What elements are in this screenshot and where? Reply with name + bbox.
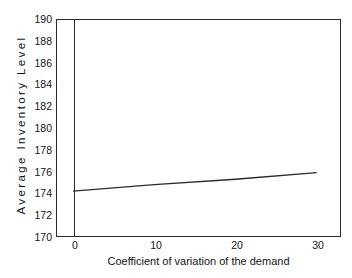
- y-tick-label: 186: [18, 58, 52, 68]
- x-axis-tick-labels: 0 10 20 30: [0, 240, 352, 254]
- y-axis-tick-labels: 190 188 186 184 182 180 178 176 174 172 …: [16, 0, 52, 278]
- x-tick-label: 0: [55, 240, 95, 251]
- x-tick-label: 20: [217, 240, 257, 251]
- chart-figure: Average Inventory Level 190 188 186 184 …: [0, 0, 352, 278]
- y-tick-label: 178: [18, 145, 52, 155]
- vertical-axis-line: [74, 19, 75, 237]
- y-tick-label: 188: [18, 36, 52, 46]
- y-tick-label: 184: [18, 79, 52, 89]
- y-tick-label: 174: [18, 188, 52, 198]
- y-tick-label: 182: [18, 101, 52, 111]
- plot-frame: [56, 19, 341, 237]
- x-tick-label: 10: [136, 240, 176, 251]
- x-axis-title: Coefficient of variation of the demand: [56, 255, 341, 267]
- x-tick-label: 30: [298, 240, 338, 251]
- y-tick-label: 176: [18, 167, 52, 177]
- y-tick-label: 172: [18, 210, 52, 220]
- y-tick-label: 180: [18, 123, 52, 133]
- y-tick-label: 190: [18, 14, 52, 24]
